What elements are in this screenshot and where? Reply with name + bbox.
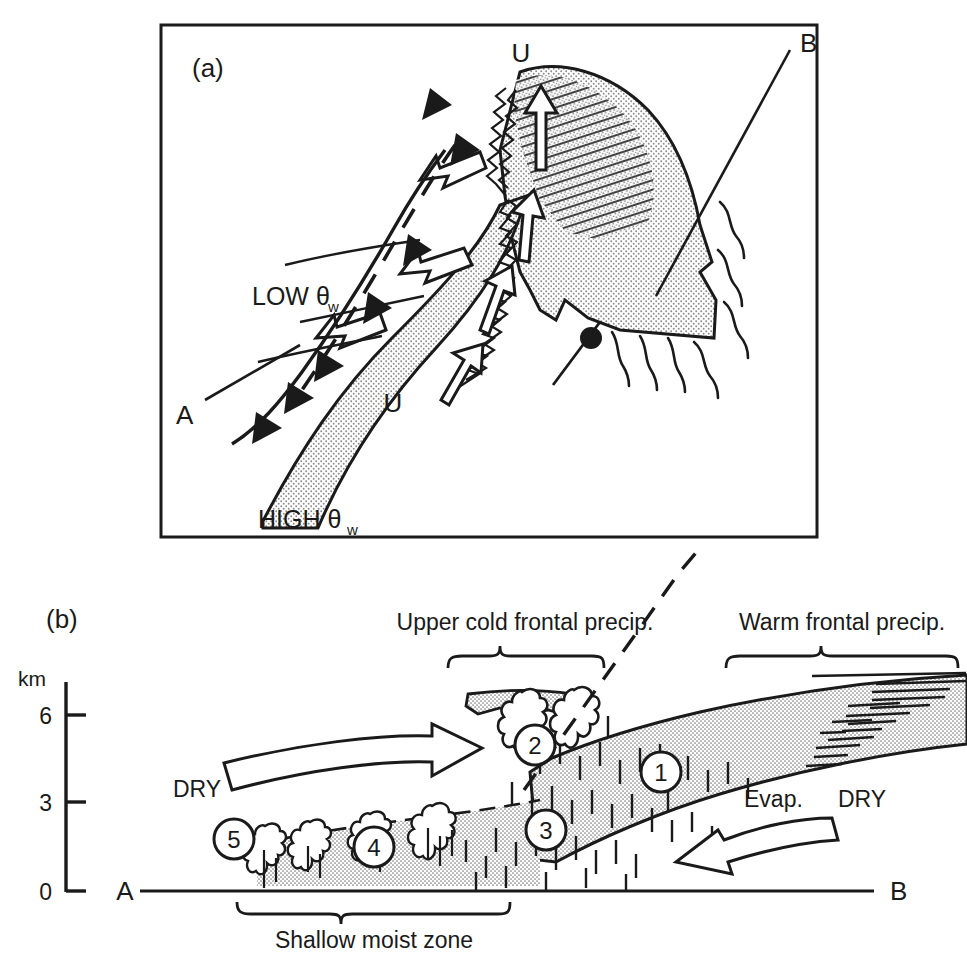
label-dry-lower: DRY (838, 786, 886, 812)
numbered-region-3: 3 (526, 810, 566, 850)
numbered-region-5: 5 (214, 819, 254, 859)
panel-a-point-b-label: B (800, 28, 817, 58)
figure-svg: (a) (0, 0, 967, 959)
panel-a-label: (a) (192, 53, 224, 83)
label-evap: Evap. (744, 786, 803, 812)
svg-text:HIGH θ: HIGH θ (258, 505, 341, 533)
dry-intrusion-arrow-right (224, 724, 482, 790)
axis-tick-6: 6 (39, 703, 52, 729)
numbered-region-3-text: 3 (539, 817, 552, 844)
brace-shallow-moist-zone (237, 902, 510, 924)
panel-a: (a) (161, 25, 817, 538)
label-dry-upper: DRY (173, 776, 221, 802)
svg-text:w: w (327, 298, 339, 315)
panel-a-point-a-label: A (176, 400, 194, 430)
brace-upper-cold-frontal-precip (448, 646, 604, 668)
numbered-region-1: 1 (641, 752, 681, 792)
label-warm-frontal-precip: Warm frontal precip. (739, 609, 945, 635)
panel-a-u-lower-label: U (384, 388, 403, 418)
brace-warm-frontal-precip (726, 646, 958, 668)
figure-root: (a) (0, 0, 967, 959)
dry-inflow-arrow-left (676, 818, 838, 874)
axis-unit-label: km (18, 667, 46, 690)
axis-tick-0: 0 (39, 879, 52, 905)
label-shallow-moist-zone: Shallow moist zone (275, 927, 473, 953)
panel-a-u-upper-label: U (512, 38, 531, 68)
axis-tick-3: 3 (39, 790, 52, 816)
numbered-region-4-text: 4 (367, 834, 380, 861)
numbered-region-4: 4 (354, 827, 394, 867)
panel-b-point-b-label: B (890, 876, 907, 906)
numbered-region-5-text: 5 (227, 826, 240, 853)
height-axis: km 6 3 0 (18, 667, 86, 905)
panel-b: (b) km 6 3 0 A B (18, 548, 967, 953)
numbered-region-1-text: 1 (654, 759, 667, 786)
warm-front-semicircle (580, 327, 602, 349)
numbered-region-2-text: 2 (528, 732, 541, 759)
panel-b-point-a-label: A (116, 876, 134, 906)
svg-text:LOW θ: LOW θ (252, 282, 330, 310)
numbered-region-2: 2 (515, 725, 555, 765)
panel-b-label: (b) (46, 604, 78, 634)
label-upper-cold-frontal-precip: Upper cold frontal precip. (397, 609, 654, 635)
